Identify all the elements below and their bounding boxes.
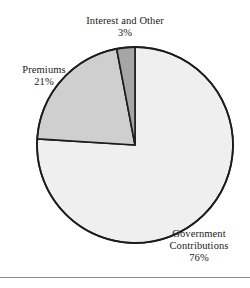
pie-label-premiums: Premiums 21%	[2, 64, 86, 88]
pie-chart-figure: Interest and Other 3% Premiums 21% Gover…	[0, 0, 250, 288]
pie-label-government-contributions: Government Contributions 76%	[150, 228, 248, 263]
pie-label-government-contributions-name-line1: Government	[150, 228, 248, 240]
pie-label-interest-and-other: Interest and Other 3%	[58, 15, 192, 39]
pie-label-government-contributions-name-line2: Contributions	[150, 240, 248, 252]
pie-label-government-contributions-value: 76%	[150, 252, 248, 264]
pie-label-interest-and-other-value: 3%	[58, 27, 192, 39]
footer-divider	[0, 277, 250, 278]
pie-label-premiums-value: 21%	[2, 76, 86, 88]
pie-label-interest-and-other-name: Interest and Other	[58, 15, 192, 27]
pie-label-premiums-name: Premiums	[2, 64, 86, 76]
